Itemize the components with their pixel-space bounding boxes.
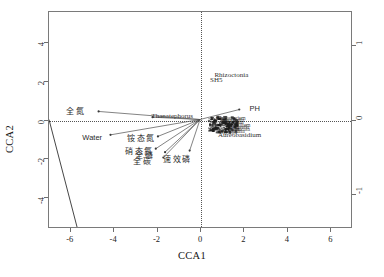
x-axis-tick-label: 6 (328, 234, 332, 244)
species-point (220, 125, 221, 127)
x-axis-tick (157, 228, 158, 232)
species-point (211, 129, 214, 132)
vector-layer (49, 12, 351, 227)
y2-axis-tick (352, 194, 356, 195)
y-axis-tick-label: -2 (36, 158, 46, 165)
env-vector-head (109, 134, 111, 136)
species-point (208, 128, 210, 129)
env-vector-label: Water (82, 134, 102, 142)
y2-axis-tick-label: 1 (354, 40, 364, 44)
species-label: Thanatephorus (151, 113, 193, 120)
reference-line (49, 120, 77, 228)
env-vector-arrow (163, 120, 200, 158)
plot-canvas: CladosporiumMortierellaFusariumPenicilli… (49, 12, 351, 227)
zero-line-vertical (201, 12, 202, 227)
x-axis-tick-label: 4 (285, 234, 289, 244)
x-axis-tick (287, 228, 288, 232)
plot-area: CladosporiumMortierellaFusariumPenicilli… (48, 11, 352, 228)
x-axis-tick-label: 0 (198, 234, 202, 244)
cca-biplot-figure: CCA2 CCA1 CladosporiumMortierellaFusariu… (0, 0, 384, 277)
x-axis-title: CCA1 (178, 250, 206, 261)
x-axis-tick-label: 2 (241, 234, 245, 244)
y-axis-tick-label: 2 (36, 81, 46, 85)
figure-caption (0, 268, 384, 277)
env-vector-head (155, 148, 157, 150)
env-vector-label: PH (250, 105, 260, 113)
env-vector-arrow (156, 120, 200, 149)
env-vector-head (189, 150, 191, 152)
y2-axis-tick-label: 0 (354, 115, 364, 119)
env-vector-label: 全氮 (66, 108, 85, 116)
env-vector-head (238, 108, 240, 110)
env-vector-label: 速效磷 (163, 156, 192, 164)
env-vector-label: 铵态氮 (127, 135, 156, 143)
env-vector-head (157, 135, 159, 137)
env-vector-arrow (190, 120, 200, 151)
species-label: SH5 (210, 77, 222, 84)
x-axis-tick-label: -6 (66, 234, 73, 244)
x-axis-tick (113, 228, 114, 232)
species-label: Aureobasidium (218, 132, 261, 139)
y2-axis-tick-label: -1 (354, 187, 364, 194)
env-vector-head (164, 151, 166, 153)
species-point (215, 125, 219, 126)
y-axis-tick-label: 0 (36, 120, 46, 124)
x-axis-tick-label: -2 (153, 234, 160, 244)
species-point (210, 121, 214, 122)
y-axis-tick-label: 4 (36, 42, 46, 46)
env-vector-arrow (110, 120, 200, 135)
env-vector-arrow (165, 120, 200, 153)
species-point (215, 122, 217, 123)
x-axis-tick (70, 228, 71, 232)
x-axis-tick-label: -4 (110, 234, 117, 244)
env-vector-label: 全碳 (133, 158, 152, 166)
x-axis-tick (243, 228, 244, 232)
env-vector-arrow (158, 120, 200, 137)
x-axis-tick (330, 228, 331, 232)
zero-line-horizontal (49, 121, 351, 122)
x-axis-tick (200, 228, 201, 232)
y-axis-title: CCA2 (4, 124, 15, 152)
env-vector-head (98, 110, 100, 112)
y-axis-tick-label: -4 (36, 197, 46, 204)
